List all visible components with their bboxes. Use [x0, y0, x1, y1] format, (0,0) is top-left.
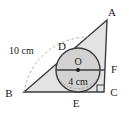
geometry-canvas: A B C D E F O 10 cm 4 cm [0, 0, 129, 113]
geometry-figure: A B C D E F O 10 cm 4 cm [0, 0, 129, 113]
center-point-o-dot [76, 68, 80, 72]
circle-center-label-o: O [74, 56, 81, 67]
vertex-label-c: C [110, 86, 117, 98]
tangent-point-label-e: E [73, 97, 80, 109]
tangent-point-label-f: F [111, 63, 117, 75]
tangent-point-label-d: D [58, 40, 66, 52]
diameter-length-label-4cm: 4 cm [68, 76, 88, 87]
segment-length-label-10cm: 10 cm [9, 45, 34, 56]
vertex-label-b: B [5, 87, 12, 99]
vertex-label-a: A [108, 6, 116, 18]
